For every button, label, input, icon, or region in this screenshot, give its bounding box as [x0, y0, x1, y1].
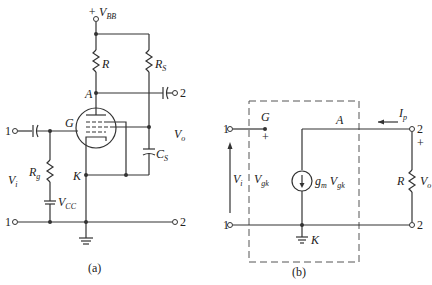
k-label-b: K [310, 233, 320, 247]
g-label-b: G [261, 110, 270, 124]
svg-text:2: 2 [417, 218, 423, 232]
vo-label: Vo [174, 127, 185, 143]
figure-a-triode-amplifier: + VBB R RS A 2 [5, 5, 186, 275]
output-terminal-2 [173, 91, 178, 96]
vbb-label: + VBB [88, 5, 116, 21]
input-terminal-1 [13, 129, 18, 134]
a-label-b: A [335, 113, 344, 127]
vi-arrow-icon [228, 142, 233, 149]
vgk-label: Vgk [254, 172, 269, 188]
r-label: R [101, 57, 110, 71]
ip-label: Ip [398, 106, 407, 122]
resistor-rg [47, 160, 53, 182]
svg-text:2: 2 [180, 215, 186, 229]
svg-text:+: + [262, 130, 269, 144]
vo-label-b: Vo [420, 174, 431, 190]
resistor-rs [146, 50, 152, 72]
gm-vgk-label: gmVgk [315, 174, 345, 190]
caption-b: (b) [292, 265, 306, 279]
svg-text:+: + [417, 136, 424, 150]
rs-label: RS [154, 57, 166, 73]
ip-arrow-icon [378, 120, 384, 125]
svg-text:2: 2 [417, 122, 423, 136]
vcc-label: VCC [58, 195, 77, 211]
rg-label: Rg [28, 165, 40, 181]
vbb-terminal [94, 17, 99, 22]
vi-label-b: Vi [233, 172, 243, 188]
svg-text:1: 1 [5, 124, 11, 138]
r-label-b: R [396, 174, 405, 188]
vi-label: Vi [8, 173, 18, 189]
svg-text:1: 1 [5, 215, 11, 229]
a-label: A [84, 87, 93, 101]
circuit-figure: + VBB R RS A 2 [0, 0, 432, 285]
cs-label: CS [156, 147, 168, 163]
caption-a: (a) [88, 261, 101, 275]
resistor-r-b [409, 170, 415, 192]
k-label: K [72, 169, 82, 183]
svg-text:2: 2 [180, 86, 186, 100]
resistor-r [93, 50, 99, 72]
g-label: G [65, 116, 74, 130]
figure-b-equivalent-circuit: 1 G + A Ip 2 + gmVgk R Vo Vi Vgk 1 [223, 101, 431, 279]
